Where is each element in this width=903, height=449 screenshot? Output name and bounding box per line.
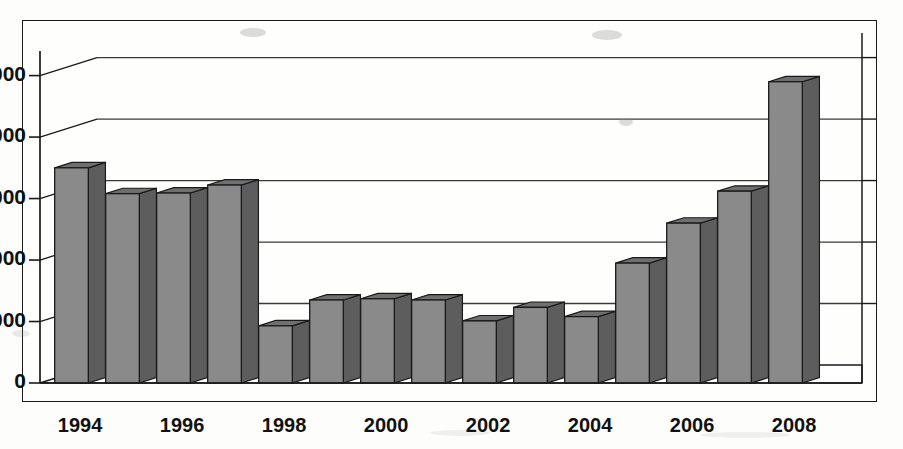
- y-axis-tick-label: 2,000: [0, 246, 26, 270]
- y-axis-tick-label: 4,000: [0, 123, 26, 147]
- y-axis-tick-label: 1,000: [0, 308, 26, 332]
- scan-artifact: [592, 30, 622, 40]
- chart-figure: 01,0002,0003,0004,0005,00019941996199820…: [0, 0, 903, 449]
- x-axis-tick-label: 2004: [560, 414, 620, 437]
- x-axis-tick-label: 1994: [50, 414, 110, 437]
- y-axis-tick-label: 5,000: [0, 62, 26, 86]
- scan-artifact: [619, 118, 633, 126]
- y-axis-tick-label: 3,000: [0, 185, 26, 209]
- x-axis-tick-label: 2006: [662, 414, 722, 437]
- x-axis-tick-label: 1998: [254, 414, 314, 437]
- x-axis-tick-label: 1996: [152, 414, 212, 437]
- scan-artifact: [240, 28, 266, 37]
- chart-frame: [22, 20, 877, 402]
- x-axis-tick-label: 2008: [764, 414, 824, 437]
- x-axis-tick-label: 2002: [458, 414, 518, 437]
- y-axis-tick-label: 0: [14, 369, 26, 393]
- x-axis-tick-label: 2000: [356, 414, 416, 437]
